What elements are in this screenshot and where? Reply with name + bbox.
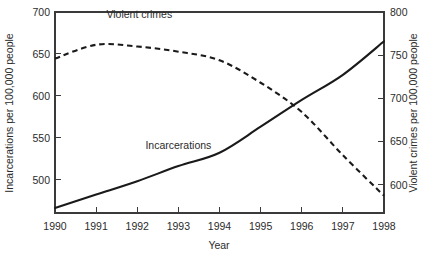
x-tick-label: 1993 [167,220,191,232]
y-left-tick-label: 600 [32,90,50,102]
series-incarcerations-line [55,41,384,208]
x-tick-label: 1995 [249,220,273,232]
series-violent-crimes-label: Violent crimes [106,8,172,20]
y-axis-right-tick-labels: 600650700750800 [390,6,408,191]
y-right-tick-label: 600 [390,179,408,191]
y-right-tick-label: 750 [390,49,408,61]
x-axis-tick-labels: 199019911992199319941995199619971998 [43,220,396,232]
y-right-tick-label: 800 [390,6,408,18]
x-tick-label: 1990 [43,220,67,232]
y-left-tick-label: 650 [32,48,50,60]
series-group [55,41,384,208]
y-axis-left-title: Incarcerations per 100,000 people [3,33,15,193]
axis-frame [55,12,384,213]
series-violent-crimes-line [55,44,384,196]
y-axis-right-title: Violent crimes per 100,000 people [407,33,419,192]
y-axis-left-tick-labels: 500550600650700 [32,6,50,186]
y-right-tick-label: 650 [390,135,408,147]
y-left-tick-label: 550 [32,132,50,144]
y-left-tick-label: 700 [32,6,50,18]
dual-axis-line-chart: 500550600650700 600650700750800 19901991… [0,0,429,258]
x-tick-label: 1998 [372,220,396,232]
x-axis-title: Year [208,239,230,251]
chart-screenshot: 500550600650700 600650700750800 19901991… [0,0,429,258]
x-tick-label: 1992 [126,220,150,232]
x-tick-label: 1994 [208,220,232,232]
x-axis-ticks [55,207,384,213]
x-tick-label: 1996 [290,220,314,232]
y-axis-right-ticks [378,12,384,185]
series-incarcerations-label: Incarcerations [145,139,211,151]
x-tick-label: 1991 [84,220,108,232]
x-tick-label: 1997 [331,220,355,232]
y-left-tick-label: 500 [32,174,50,186]
y-right-tick-label: 700 [390,92,408,104]
plot-frame [55,12,384,213]
y-axis-left-ticks [55,12,61,180]
